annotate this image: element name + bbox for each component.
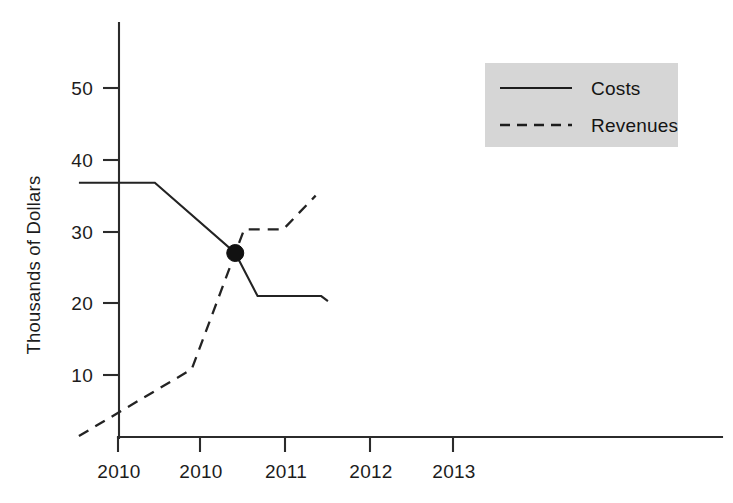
x-tick-group: 2010 2010 2011 2012 2013	[97, 437, 475, 482]
y-tick-label-50: 50	[71, 78, 93, 99]
x-tick-label-1: 2010	[179, 461, 222, 482]
series-group	[79, 183, 328, 436]
y-tick-label-40: 40	[71, 150, 93, 171]
legend-label-costs: Costs	[591, 78, 641, 99]
x-tick-label-3: 2012	[349, 461, 392, 482]
y-tick-label-20: 20	[71, 293, 93, 314]
line-chart-figure: 10 20 30 40 50 2010 2010 2011 2012 2013 …	[0, 0, 733, 503]
x-tick-label-0: 2010	[97, 461, 140, 482]
break-even-point-marker	[227, 245, 244, 262]
x-tick-label-4: 2013	[432, 461, 475, 482]
legend: Costs Revenues	[485, 63, 678, 147]
x-tick-label-2: 2011	[265, 461, 307, 482]
chart-canvas: 10 20 30 40 50 2010 2010 2011 2012 2013 …	[0, 0, 733, 503]
y-axis-title: Thousands of Dollars	[23, 176, 44, 355]
y-tick-group: 10 20 30 40 50	[71, 78, 119, 386]
legend-label-revenues: Revenues	[591, 115, 678, 136]
y-tick-label-10: 10	[71, 365, 93, 386]
series-line-costs	[79, 183, 328, 301]
y-tick-label-30: 30	[71, 222, 93, 243]
